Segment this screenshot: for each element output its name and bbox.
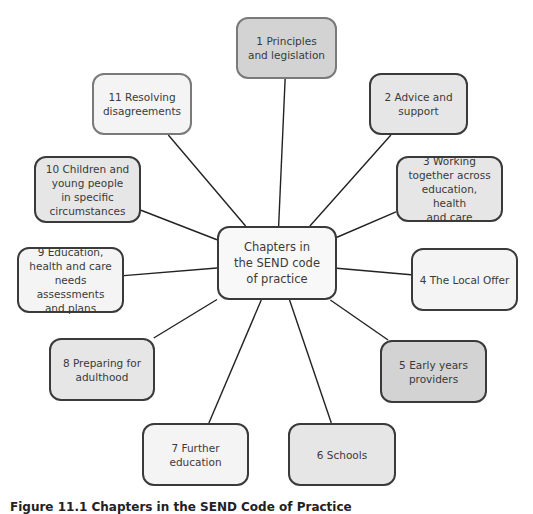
chapter-node-4: 4 The Local Offer bbox=[411, 248, 518, 311]
chapter-node-5: 5 Early years providers bbox=[380, 340, 487, 403]
chapter-node-9: 9 Education, health and care needs asses… bbox=[17, 247, 124, 313]
chapter-label-1: 1 Principles and legislation bbox=[248, 34, 325, 62]
chapter-node-10: 10 Children and young people in specific… bbox=[34, 156, 141, 223]
chapter-node-3: 3 Working together across education, hea… bbox=[396, 156, 503, 222]
connector-line-10 bbox=[141, 210, 217, 239]
chapter-node-7: 7 Further education bbox=[142, 423, 249, 486]
chapter-node-8: 8 Preparing for adulthood bbox=[49, 338, 155, 401]
connector-line-2 bbox=[310, 135, 391, 226]
connector-line-11 bbox=[168, 135, 245, 226]
connector-line-7 bbox=[209, 300, 261, 423]
chapter-label-6: 6 Schools bbox=[317, 448, 367, 462]
chapter-node-6: 6 Schools bbox=[288, 423, 396, 486]
connector-line-5 bbox=[330, 300, 388, 340]
connector-line-9 bbox=[124, 268, 217, 276]
chapter-label-7: 7 Further education bbox=[169, 441, 221, 469]
chapter-label-5: 5 Early years providers bbox=[399, 358, 468, 386]
connector-line-6 bbox=[290, 300, 332, 423]
chapter-label-8: 8 Preparing for adulthood bbox=[63, 356, 141, 384]
chapter-label-2: 2 Advice and support bbox=[384, 90, 452, 118]
connector-line-3 bbox=[337, 212, 396, 237]
chapter-label-11: 11 Resolving disagreements bbox=[103, 90, 181, 118]
chapter-node-11: 11 Resolving disagreements bbox=[92, 73, 192, 135]
chapter-node-2: 2 Advice and support bbox=[369, 73, 468, 135]
connector-line-1 bbox=[279, 79, 285, 226]
center-node-label: Chapters in the SEND code of practice bbox=[234, 239, 320, 287]
chapter-node-1: 1 Principles and legislation bbox=[236, 17, 337, 79]
chapter-label-9: 9 Education, health and care needs asses… bbox=[25, 245, 116, 315]
chapter-label-4: 4 The Local Offer bbox=[420, 273, 510, 287]
chapter-label-10: 10 Children and young people in specific… bbox=[46, 162, 129, 218]
chapter-label-3: 3 Working together across education, hea… bbox=[404, 154, 495, 224]
connector-line-4 bbox=[337, 268, 411, 275]
center-node: Chapters in the SEND code of practice bbox=[217, 226, 337, 300]
connector-line-8 bbox=[154, 300, 217, 338]
figure-caption: Figure 11.1 Chapters in the SEND Code of… bbox=[10, 500, 352, 514]
